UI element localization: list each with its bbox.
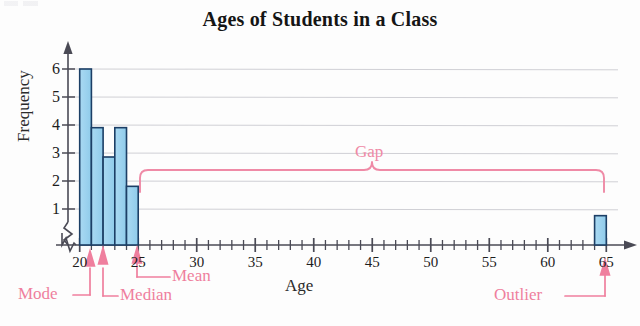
bar [80,69,92,245]
bar-series [80,69,607,245]
y-tick-label: 5 [38,88,60,106]
y-axis-arrow [63,41,72,54]
y-tick-label: 2 [38,172,60,190]
x-tick-label: 45 [352,254,392,271]
bar [115,128,127,245]
y-tick-label: 3 [38,144,60,162]
outlier-label: Outlier [494,285,542,305]
median-arrowhead [99,248,108,264]
x-tick-label: 35 [235,254,275,271]
x-tick-label: 65 [586,254,626,271]
bar [103,157,115,245]
x-axis-arrow [624,240,637,249]
x-tick-label: 50 [411,254,451,271]
mean-label: Mean [172,266,211,286]
x-tick-label: 20 [60,254,100,271]
mode-label: Mode [18,284,58,304]
x-tick-label: 55 [469,254,509,271]
gridlines [68,69,618,210]
x-tick-label: 40 [294,254,334,271]
gap-brace [140,162,604,192]
x-tick-label: 25 [118,254,158,271]
median-label: Median [120,285,172,305]
x-tick-label: 60 [528,254,568,271]
y-tick-label: 1 [38,200,60,218]
chart-canvas [0,0,640,326]
gap-label: Gap [355,142,383,162]
y-tick-label: 6 [38,60,60,78]
bar [91,128,103,245]
bar [127,186,139,245]
bar [595,216,607,245]
chart-figure: Ages of Students in a Class Frequency Ag… [0,0,640,326]
y-axis-break-icon [64,222,72,245]
y-tick-label: 4 [38,116,60,134]
